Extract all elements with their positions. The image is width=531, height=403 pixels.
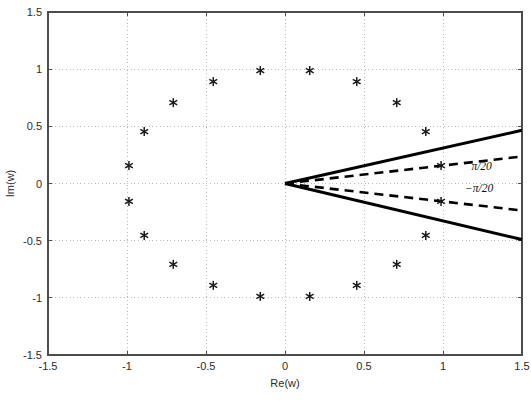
x-tick-label: -1.5 xyxy=(39,360,58,372)
x-tick-label: 0 xyxy=(282,360,288,372)
y-tick-label: 1 xyxy=(36,63,42,75)
y-tick-label: -1 xyxy=(32,292,42,304)
x-tick-label: -0.5 xyxy=(197,360,216,372)
annotation-label-pi-over-20: π/20 xyxy=(471,160,492,172)
x-tick-label: 1.5 xyxy=(514,360,529,372)
scatter-plot: -1.5-1-0.500.511.5-1.5-1-0.500.511.5 Re(… xyxy=(0,0,531,403)
figure-container: -1.5-1-0.500.511.5-1.5-1-0.500.511.5 Re(… xyxy=(0,0,531,403)
y-axis-title: Im(w) xyxy=(4,170,16,198)
y-tick-label: 0.5 xyxy=(27,120,42,132)
y-tick-label: -1.5 xyxy=(23,349,42,361)
x-tick-label: -1 xyxy=(122,360,132,372)
y-tick-label: 0 xyxy=(36,178,42,190)
x-tick-label: 0.5 xyxy=(356,360,371,372)
x-axis-title: Re(w) xyxy=(270,377,299,389)
y-tick-label: 1.5 xyxy=(27,6,42,18)
x-tick-label: 1 xyxy=(440,360,446,372)
annotation-label-neg-pi-over-20: −π/20 xyxy=(465,182,493,194)
y-tick-label: -0.5 xyxy=(23,235,42,247)
